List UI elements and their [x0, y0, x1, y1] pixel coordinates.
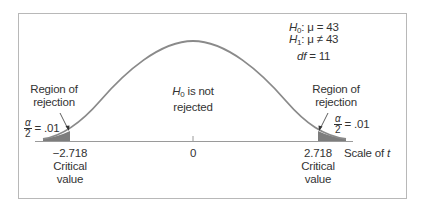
- left-alpha-fraction: α2: [24, 118, 32, 139]
- left-alpha-value: = .01: [35, 122, 60, 134]
- right-alpha-value: = .01: [345, 118, 370, 130]
- right-critical-caption1: Critical: [293, 160, 343, 173]
- center-line1: is not: [185, 85, 214, 97]
- alternative-hypothesis: H1: μ ≠ 43: [289, 33, 338, 49]
- h1-text: : μ ≠ 43: [301, 33, 338, 45]
- right-region-label: Region of rejection: [306, 83, 366, 109]
- left-alpha-label: α2 = .01: [24, 118, 59, 139]
- right-critical-caption2: value: [293, 173, 343, 186]
- zero-value: 0: [183, 147, 203, 160]
- left-critical-caption2: value: [45, 173, 95, 186]
- left-alpha-den: 2: [25, 129, 30, 139]
- left-critical-label: −2.718 Critical value: [45, 147, 95, 186]
- right-alpha-fraction: α2: [334, 114, 342, 135]
- h0-text: : μ = 43: [301, 21, 338, 33]
- left-region-label: Region of rejection: [24, 83, 84, 109]
- h0-not-rejected-label: H0 is not rejected: [155, 85, 231, 114]
- right-alpha-den: 2: [335, 125, 340, 135]
- scale-of-t-label: Scale of t: [344, 147, 390, 160]
- left-region-line2: rejection: [24, 96, 84, 109]
- df-label: df: [297, 50, 306, 62]
- right-critical-label: 2.718 Critical value: [293, 147, 343, 186]
- h0-symbol: H: [289, 21, 297, 33]
- h1-symbol: H: [289, 33, 297, 45]
- left-critical-caption1: Critical: [45, 160, 95, 173]
- right-region-line1: Region of: [306, 83, 366, 96]
- zero-label: 0: [183, 147, 203, 160]
- left-region-line1: Region of: [24, 83, 84, 96]
- degrees-of-freedom: df = 11: [297, 50, 330, 63]
- scale-label-prefix: Scale of: [344, 147, 387, 159]
- right-region-line2: rejection: [306, 96, 366, 109]
- df-value: = 11: [309, 50, 330, 62]
- center-line2: rejected: [155, 101, 231, 114]
- right-critical-value: 2.718: [293, 147, 343, 160]
- scale-label-var: t: [387, 147, 390, 159]
- left-critical-value: −2.718: [45, 147, 95, 160]
- right-alpha-label: α2 = .01: [334, 114, 369, 135]
